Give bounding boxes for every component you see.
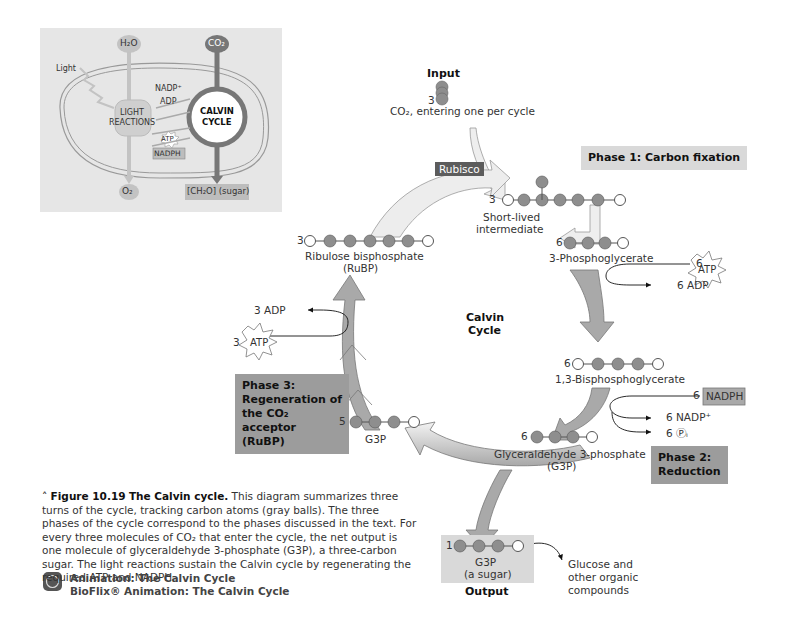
g3p6-label-1: Glyceraldehyde 3-phosphate — [494, 448, 646, 460]
g3p5-label: G3P — [365, 433, 386, 445]
center-label-2: Cycle — [468, 324, 501, 337]
atp-in-phase3-count: 3 — [233, 336, 240, 348]
bpg-molecule — [573, 358, 664, 370]
phase2-label: Phase 2: Reduction — [651, 446, 728, 484]
caption-arrow-icon: ˄ — [42, 490, 47, 502]
phase3-label: Phase 3: Regeneration of the CO₂ accepto… — [235, 374, 349, 454]
bioflix-link[interactable]: BioFlix® Animation: The Calvin Cycle — [70, 585, 289, 598]
phase3-line-2: Regeneration of — [242, 393, 342, 407]
g3p6-count: 6 — [521, 430, 528, 442]
output-count: 1 — [446, 539, 453, 551]
intermediate-label-1: Short-lived — [483, 211, 540, 223]
output-title: Output — [465, 585, 508, 598]
bpg-count: 6 — [564, 357, 571, 369]
intermediate-count: 3 — [489, 193, 496, 205]
glucose-label-2: other organic — [568, 571, 638, 583]
rubp-label-2: (RuBP) — [343, 262, 378, 274]
phase1-label: Phase 1: Carbon fixation — [581, 146, 747, 170]
intermediate-label-2: intermediate — [476, 223, 544, 235]
animation-link[interactable]: Animation: The Calvin Cycle — [70, 572, 289, 585]
phase2-line-1: Phase 2: — [658, 451, 721, 465]
center-label-1: Calvin — [466, 311, 504, 324]
phase3-line-3: the CO₂ acceptor — [242, 407, 342, 435]
output-g3p-label: G3P — [475, 556, 496, 568]
phase3-line-4: (RuBP) — [242, 435, 342, 449]
pi-out: 6 Ⓟᵢ — [666, 425, 688, 440]
mastering-biology-icon[interactable] — [43, 572, 62, 591]
pga-count: 6 — [556, 236, 563, 248]
phase1-text: Phase 1: Carbon fixation — [588, 151, 740, 164]
output-sugar-label: (a sugar) — [464, 568, 512, 580]
nadph-in-label: NADPH — [706, 390, 743, 402]
nadph-in-count: 6 — [693, 389, 700, 401]
pga-label: 3-Phosphoglycerate — [549, 252, 653, 264]
g3p5-molecule — [350, 416, 420, 428]
adp-out-phase3: 3 ADP — [254, 304, 286, 316]
adp-out-phase2: 6 ADP — [677, 279, 709, 291]
rubp-label-1: Ribulose bisphosphate — [305, 250, 424, 262]
figure-body: This diagram summarizes three turns of t… — [42, 490, 416, 583]
input-title: Input — [427, 67, 460, 80]
nadp-out: 6 NADP⁺ — [666, 411, 711, 423]
g3p6-label-2: (G3P) — [547, 460, 576, 472]
rubisco-enzyme-label: Rubisco — [435, 162, 484, 176]
figure-title: The Calvin cycle. — [129, 490, 228, 502]
rubp-count: 3 — [297, 234, 304, 246]
input-co2-label: CO₂, entering one per cycle — [390, 105, 535, 117]
glucose-label-1: Glucose and — [568, 558, 633, 570]
phase2-line-2: Reduction — [658, 465, 721, 479]
rubp-molecule — [305, 235, 434, 247]
figure-label: Figure 10.19 — [51, 490, 126, 502]
media-links: Animation: The Calvin Cycle BioFlix® Ani… — [70, 572, 289, 598]
intermediate-molecule — [503, 176, 626, 206]
glucose-label-3: compounds — [568, 584, 629, 596]
figure-caption: ˄ Figure 10.19 The Calvin cycle. This di… — [42, 490, 417, 585]
atp-in-phase3-label: ATP — [250, 337, 268, 348]
atp-in-phase2-label: ATP — [698, 264, 716, 275]
bpg-label: 1,3-Bisphosphoglycerate — [555, 373, 685, 385]
phase3-line-1: Phase 3: — [242, 379, 342, 393]
g3p5-count: 5 — [339, 415, 346, 427]
